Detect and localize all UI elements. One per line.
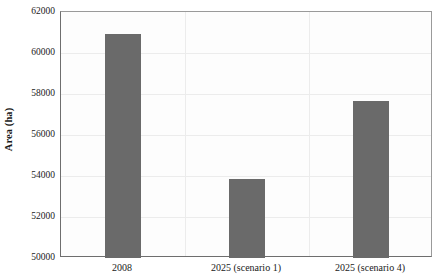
bar-chart: Area (ha) 500005200054000560005800060000… bbox=[0, 0, 440, 280]
x-axis-tick-labels: 20082025 (scenario 1)2025 (scenario 4) bbox=[60, 259, 432, 280]
y-axis-tick-label: 52000 bbox=[13, 211, 55, 221]
bar bbox=[229, 179, 265, 259]
x-axis-tick-label: 2008 bbox=[60, 262, 184, 273]
x-axis-tick-label: 2025 (scenario 1) bbox=[184, 262, 308, 273]
gridline-vertical bbox=[309, 12, 310, 256]
bar bbox=[105, 34, 141, 259]
y-axis-tick-label: 50000 bbox=[13, 252, 55, 262]
y-axis-tick-label: 54000 bbox=[13, 170, 55, 180]
y-axis-tick-label: 58000 bbox=[13, 88, 55, 98]
y-axis-tick-label: 56000 bbox=[13, 129, 55, 139]
bar bbox=[353, 101, 389, 258]
plot-area bbox=[60, 11, 432, 257]
y-axis-tick-label: 60000 bbox=[13, 47, 55, 57]
gridline-vertical bbox=[185, 12, 186, 256]
x-axis-tick-label: 2025 (scenario 4) bbox=[308, 262, 432, 273]
y-axis-tick-label: 62000 bbox=[13, 6, 55, 16]
y-axis-tick-labels: 50000520005400056000580006000062000 bbox=[16, 0, 58, 280]
